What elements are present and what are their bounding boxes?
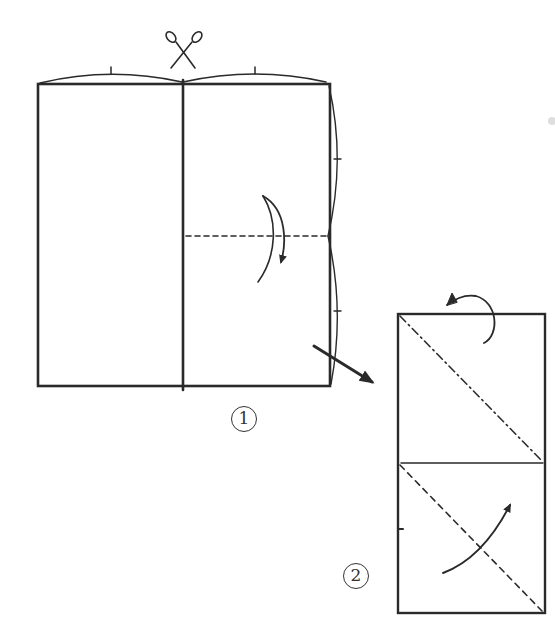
step-2-number: 2 <box>343 563 369 589</box>
step-1-number: 1 <box>231 406 257 432</box>
origami-diagram <box>0 0 555 636</box>
valley-fold-line-2 <box>400 465 542 611</box>
fold-down-arrow-icon <box>258 196 284 282</box>
step-1 <box>38 30 372 390</box>
smudge <box>548 117 555 125</box>
mountain-fold-line <box>400 316 542 461</box>
next-step-arrow-icon <box>314 346 372 382</box>
fold-behind-arrow-icon <box>447 293 494 343</box>
step-2 <box>398 293 545 613</box>
fold-up-arrow-icon <box>443 505 510 573</box>
scissors-icon <box>164 30 204 68</box>
